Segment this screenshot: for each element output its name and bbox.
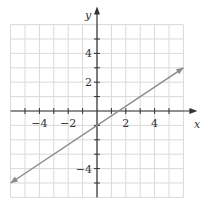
x-tick-label: 2 <box>122 117 129 130</box>
line-arrowhead-end-icon <box>176 68 183 74</box>
x-tick-label: −2 <box>60 117 76 130</box>
x-axis-arrow-icon <box>189 108 197 114</box>
line-arrowhead-start-icon <box>11 177 18 183</box>
y-tick-label: −4 <box>76 163 92 176</box>
x-axis-label: x <box>194 118 201 131</box>
coordinate-plane: −4−224−424 x y <box>0 0 207 201</box>
y-axis-label: y <box>84 9 92 22</box>
y-tick-label: 4 <box>85 47 92 60</box>
x-tick-label: −4 <box>31 117 47 130</box>
y-axis-arrow-icon <box>94 7 100 15</box>
y-tick-label: 2 <box>85 76 92 89</box>
x-tick-label: 4 <box>151 117 158 130</box>
